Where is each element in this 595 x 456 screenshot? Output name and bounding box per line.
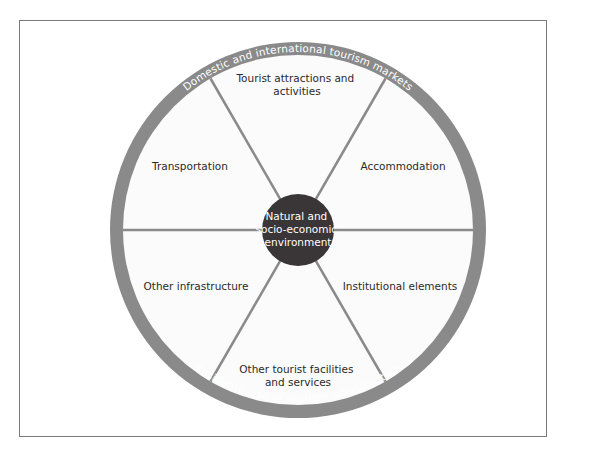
center-hub-label: Natural and socio-economic environment	[256, 210, 341, 248]
segment-upper-left-label: Transportation	[151, 160, 228, 172]
segment-lower-right-label: Institutional elements	[343, 280, 458, 292]
tourism-wheel-diagram: Domestic and international tourism marke…	[0, 0, 595, 456]
segment-upper-right-label: Accommodation	[360, 160, 445, 172]
segment-lower-left-label: Other infrastructure	[144, 280, 249, 292]
